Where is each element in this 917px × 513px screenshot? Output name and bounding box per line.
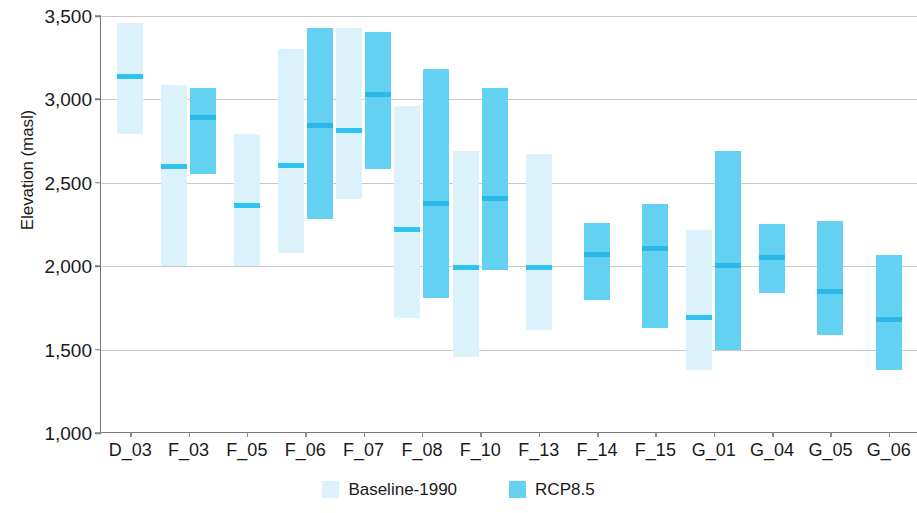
plot-area: 3,5003,0002,5002,0001,5001,000D_03F_03F_… bbox=[100, 16, 917, 433]
range-bar-baseline bbox=[336, 28, 362, 200]
range-bar-rcp85 bbox=[584, 223, 610, 301]
x-axis-tick-label-f_14: F_14 bbox=[577, 441, 618, 459]
x-axis-tick-mark bbox=[830, 432, 832, 437]
median-marker-rcp85 bbox=[423, 201, 449, 206]
median-marker-rcp85 bbox=[715, 263, 741, 268]
range-bar-rcp85 bbox=[642, 204, 668, 327]
y-axis-tick-label: 2,500 bbox=[6, 173, 92, 192]
range-bar-rcp85 bbox=[715, 151, 741, 350]
legend-item-baseline[interactable]: Baseline-1990 bbox=[322, 481, 457, 498]
elevation-range-chart: Elevation (masl) 3,5003,0002,5002,0001,5… bbox=[0, 0, 917, 513]
range-bar-rcp85 bbox=[365, 32, 391, 170]
legend-swatch-rcp bbox=[509, 481, 526, 498]
x-axis-tick-label-f_07: F_07 bbox=[343, 441, 384, 459]
median-marker-baseline bbox=[394, 227, 420, 232]
x-axis-tick-label-f_05: F_05 bbox=[226, 441, 267, 459]
bar-group: F_14 bbox=[568, 16, 626, 432]
range-bar-rcp85 bbox=[817, 221, 843, 334]
x-axis-tick-mark bbox=[130, 432, 132, 437]
x-axis-tick-mark bbox=[247, 432, 249, 437]
bar-group: F_05 bbox=[218, 16, 276, 432]
range-bar-baseline bbox=[117, 23, 143, 135]
y-axis-tick-label: 1,000 bbox=[6, 424, 92, 443]
x-axis-tick-label-f_03: F_03 bbox=[168, 441, 209, 459]
y-axis-tick-label: 1,500 bbox=[6, 340, 92, 359]
gridline bbox=[101, 433, 917, 434]
bar-group: F_13 bbox=[510, 16, 568, 432]
x-axis-tick-mark bbox=[597, 432, 599, 437]
median-marker-rcp85 bbox=[365, 92, 391, 97]
legend-label-rcp: RCP8.5 bbox=[535, 481, 595, 498]
median-marker-rcp85 bbox=[190, 115, 216, 120]
median-marker-rcp85 bbox=[584, 252, 610, 257]
median-marker-rcp85 bbox=[642, 246, 668, 251]
plot-inner: 3,5003,0002,5002,0001,5001,000D_03F_03F_… bbox=[101, 16, 917, 432]
x-axis-tick-mark bbox=[305, 432, 307, 437]
median-marker-baseline bbox=[278, 163, 304, 168]
bar-group: F_07 bbox=[334, 16, 392, 432]
median-marker-rcp85 bbox=[817, 289, 843, 294]
median-marker-baseline bbox=[234, 203, 260, 208]
range-bar-rcp85 bbox=[190, 88, 216, 175]
x-axis-tick-label-g_05: G_05 bbox=[808, 441, 852, 459]
x-axis-tick-mark bbox=[714, 432, 716, 437]
y-axis-tick-label: 2,000 bbox=[6, 257, 92, 276]
bar-group: G_04 bbox=[743, 16, 801, 432]
legend-swatch-baseline bbox=[322, 481, 339, 498]
x-axis-tick-mark bbox=[539, 432, 541, 437]
range-bar-baseline bbox=[234, 134, 260, 267]
x-axis-tick-label-f_15: F_15 bbox=[635, 441, 676, 459]
x-axis-tick-mark bbox=[772, 432, 774, 437]
bar-group: D_03 bbox=[101, 16, 159, 432]
range-bar-rcp85 bbox=[482, 88, 508, 271]
range-bar-baseline bbox=[686, 230, 712, 370]
range-bar-baseline bbox=[394, 106, 420, 318]
median-marker-baseline bbox=[336, 128, 362, 133]
y-axis-tick-label: 3,500 bbox=[6, 7, 92, 26]
x-axis-tick-mark bbox=[480, 432, 482, 437]
chart-legend: Baseline-1990RCP8.5 bbox=[0, 481, 917, 498]
range-bar-baseline bbox=[278, 49, 304, 252]
bar-group: G_01 bbox=[685, 16, 743, 432]
median-marker-rcp85 bbox=[307, 123, 333, 128]
x-axis-tick-mark bbox=[189, 432, 191, 437]
bar-group: F_08 bbox=[393, 16, 451, 432]
x-axis-tick-mark bbox=[422, 432, 424, 437]
legend-item-rcp[interactable]: RCP8.5 bbox=[509, 481, 595, 498]
bar-group: F_15 bbox=[626, 16, 684, 432]
range-bar-rcp85 bbox=[423, 69, 449, 298]
bar-group: F_06 bbox=[276, 16, 334, 432]
x-axis-tick-label-g_01: G_01 bbox=[692, 441, 736, 459]
x-axis-tick-label-g_04: G_04 bbox=[750, 441, 794, 459]
range-bar-rcp85 bbox=[876, 255, 902, 370]
median-marker-baseline bbox=[686, 315, 712, 320]
median-marker-baseline bbox=[161, 164, 187, 169]
x-axis-tick-label-f_13: F_13 bbox=[518, 441, 559, 459]
range-bar-baseline bbox=[453, 151, 479, 357]
median-marker-baseline bbox=[453, 265, 479, 270]
x-axis-tick-label-f_08: F_08 bbox=[401, 441, 442, 459]
x-axis-tick-mark bbox=[364, 432, 366, 437]
bar-group: G_06 bbox=[860, 16, 917, 432]
bar-group: G_05 bbox=[801, 16, 859, 432]
median-marker-rcp85 bbox=[876, 317, 902, 322]
x-axis-tick-mark bbox=[655, 432, 657, 437]
x-axis-tick-label-d_03: D_03 bbox=[109, 441, 152, 459]
range-bar-baseline bbox=[161, 85, 187, 266]
x-axis-tick-label-g_06: G_06 bbox=[867, 441, 911, 459]
x-axis-tick-label-f_06: F_06 bbox=[285, 441, 326, 459]
range-bar-baseline bbox=[526, 154, 552, 330]
median-marker-baseline bbox=[117, 74, 143, 79]
median-marker-rcp85 bbox=[482, 196, 508, 201]
bar-group: F_10 bbox=[451, 16, 509, 432]
x-axis-tick-mark bbox=[889, 432, 891, 437]
x-axis-tick-label-f_10: F_10 bbox=[460, 441, 501, 459]
median-marker-rcp85 bbox=[759, 255, 785, 260]
legend-label-baseline: Baseline-1990 bbox=[348, 481, 457, 498]
y-axis-tick-label: 3,000 bbox=[6, 90, 92, 109]
y-axis-tick-mark bbox=[95, 432, 101, 434]
bar-group: F_03 bbox=[159, 16, 217, 432]
median-marker-baseline bbox=[526, 265, 552, 270]
